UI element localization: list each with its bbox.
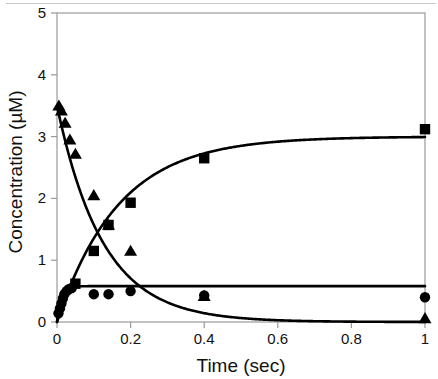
y-tick-label: 1 <box>38 251 46 268</box>
x-tick-label: 1 <box>421 330 429 347</box>
plot-frame-box <box>57 13 425 322</box>
y-tick-label: 0 <box>38 313 46 330</box>
marker-circle <box>103 289 113 299</box>
marker-square <box>199 153 209 163</box>
marker-square <box>103 220 113 230</box>
x-tick-label: 0 <box>53 330 61 347</box>
plot-frame <box>57 13 425 322</box>
figure-panel: 012345 00.20.40.60.81 Time (sec) Concent… <box>0 0 438 379</box>
y-tick-label: 3 <box>38 128 46 145</box>
marker-triangle <box>418 312 431 323</box>
y-tick-label: 2 <box>38 189 46 206</box>
top-divider-rule <box>6 3 436 4</box>
marker-circle <box>199 290 209 300</box>
marker-circle <box>125 286 135 296</box>
marker-square <box>89 246 99 256</box>
marker-square <box>125 198 135 208</box>
concentration-vs-time-chart: 012345 00.20.40.60.81 Time (sec) Concent… <box>0 0 438 379</box>
marker-circle <box>67 283 77 293</box>
x-tick-label: 0.6 <box>267 330 288 347</box>
marker-square <box>420 124 430 134</box>
x-axis-title: Time (sec) <box>196 355 285 376</box>
y-axis-tick-labels: 012345 <box>38 4 46 330</box>
x-tick-label: 0.4 <box>194 330 215 347</box>
y-tick-label: 4 <box>38 66 46 83</box>
marker-triangle <box>124 245 137 256</box>
y-axis-title: Concentration (µM) <box>5 90 26 253</box>
y-axis-ticks <box>51 13 57 322</box>
marker-triangle <box>69 148 82 159</box>
data-point-markers <box>52 100 431 324</box>
y-tick-label: 5 <box>38 4 46 21</box>
x-axis-tick-labels: 00.20.40.60.81 <box>53 330 429 347</box>
fitted-curves <box>57 106 425 322</box>
x-tick-label: 0.8 <box>341 330 362 347</box>
marker-circle <box>420 292 430 302</box>
marker-circle <box>89 289 99 299</box>
x-tick-label: 0.2 <box>120 330 141 347</box>
marker-triangle <box>87 189 100 200</box>
